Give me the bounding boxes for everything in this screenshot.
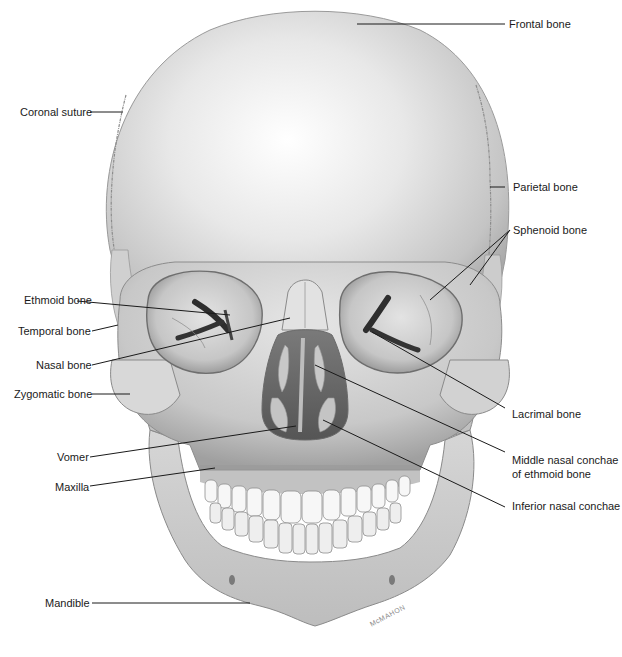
skull-illustration [0, 0, 622, 657]
label-ethmoid-bone: Ethmoid bone [24, 294, 92, 307]
label-parietal-bone: Parietal bone [513, 181, 578, 194]
label-temporal-bone: Temporal bone [18, 325, 91, 338]
label-mandible: Mandible [45, 597, 90, 610]
skull-diagram: Frontal bone Coronal suture Parietal bon… [0, 0, 622, 657]
label-coronal-suture: Coronal suture [20, 106, 92, 119]
label-nasal-bone: Nasal bone [36, 359, 92, 372]
label-middle-nasal-conchae-sub: of ethmoid bone [512, 468, 591, 481]
label-inferior-nasal-conchae: Inferior nasal conchae [512, 500, 620, 513]
label-maxilla: Maxilla [55, 481, 89, 494]
label-middle-nasal-conchae: Middle nasal conchae [512, 454, 618, 467]
label-zygomatic-bone: Zygomatic bone [14, 388, 92, 401]
left-orbit [147, 271, 263, 373]
label-sphenoid-bone: Sphenoid bone [513, 224, 587, 237]
label-frontal-bone: Frontal bone [509, 18, 571, 31]
label-lacrimal-bone: Lacrimal bone [512, 408, 581, 421]
teeth [200, 465, 420, 554]
label-vomer: Vomer [57, 451, 89, 464]
